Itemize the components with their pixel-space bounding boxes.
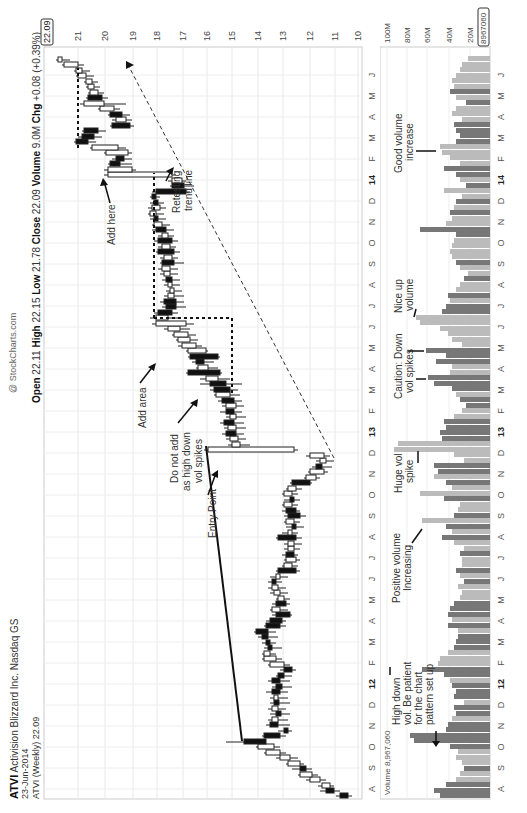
svg-text:increase: increase	[404, 123, 415, 161]
svg-text:S: S	[367, 261, 377, 267]
svg-text:12: 12	[367, 679, 377, 689]
svg-text:20M: 20M	[466, 27, 475, 43]
svg-text:A: A	[367, 786, 377, 792]
svg-text:100M: 100M	[383, 23, 392, 43]
svg-text:vol spikes: vol spikes	[193, 439, 204, 483]
svg-text:A: A	[367, 114, 377, 120]
svg-text:O: O	[367, 743, 377, 750]
svg-text:80M: 80M	[403, 27, 412, 43]
svg-text:S: S	[496, 261, 506, 267]
svg-text:S: S	[496, 513, 506, 519]
volume-panel: Volume 8,967,060	[380, 0, 492, 813]
volume-legend: Volume 8,967,060	[383, 730, 392, 795]
svg-text:N: N	[496, 471, 506, 478]
svg-text:Huge vol: Huge vol	[393, 454, 404, 493]
svg-text:O: O	[496, 239, 506, 246]
svg-text:as high down: as high down	[181, 432, 192, 491]
svg-text:F: F	[367, 156, 377, 162]
svg-text:M: M	[367, 638, 377, 646]
svg-text:M: M	[367, 596, 377, 604]
svg-text:Add here: Add here	[106, 204, 117, 245]
svg-text:M: M	[496, 596, 506, 604]
svg-text:spike: spike	[404, 459, 415, 483]
svg-text:12: 12	[496, 679, 506, 689]
month-axis-bottom: AS ON D 12 FM AM JJ AS ON D 13 FM AM JJ …	[492, 0, 512, 813]
svg-text:13: 13	[278, 31, 288, 41]
svg-text:M: M	[367, 344, 377, 352]
svg-text:J: J	[367, 325, 377, 330]
svg-text:vol. Be patient: vol. Be patient	[402, 661, 413, 725]
svg-text:20: 20	[100, 31, 110, 41]
svg-text:21: 21	[73, 31, 83, 41]
svg-text:F: F	[496, 408, 506, 414]
svg-text:15: 15	[227, 31, 237, 41]
svg-text:D: D	[496, 197, 506, 204]
svg-text:Do not add: Do not add	[169, 434, 180, 483]
svg-text:O: O	[496, 491, 506, 498]
svg-text:Positive volume: Positive volume	[391, 533, 402, 603]
svg-text:12: 12	[305, 31, 315, 41]
svg-text:J: J	[367, 304, 377, 309]
svg-text:A: A	[496, 786, 506, 792]
svg-text:M: M	[496, 344, 506, 352]
svg-text:O: O	[367, 239, 377, 246]
svg-text:M: M	[367, 134, 377, 142]
svg-text:S: S	[367, 513, 377, 519]
svg-text:F: F	[496, 660, 506, 666]
svg-text:D: D	[367, 701, 377, 708]
svg-text:J: J	[367, 73, 377, 78]
svg-text:D: D	[367, 197, 377, 204]
svg-text:A: A	[367, 282, 377, 288]
svg-text:M: M	[496, 92, 506, 100]
svg-text:F: F	[367, 660, 377, 666]
svg-text:J: J	[367, 577, 377, 582]
svg-text:pattern set up: pattern set up	[424, 663, 435, 725]
svg-text:N: N	[367, 471, 377, 478]
svg-text:M: M	[367, 386, 377, 394]
svg-text:J: J	[367, 556, 377, 561]
svg-text:S: S	[367, 765, 377, 771]
svg-text:O: O	[496, 743, 506, 750]
svg-text:Increasing: Increasing	[402, 545, 413, 591]
svg-text:N: N	[367, 723, 377, 730]
svg-text:M: M	[496, 134, 506, 142]
price-axis: 22.09 21 20 19 18 17 16 15 14 13 12 11 1…	[41, 19, 363, 45]
svg-text:Good volume: Good volume	[393, 113, 404, 173]
volume-current: 8967060	[479, 12, 488, 44]
svg-text:J: J	[496, 304, 506, 309]
svg-text:A: A	[496, 366, 506, 372]
chart-stage: ATVI Activision Blizzard Inc. Nasdaq GS …	[0, 0, 527, 813]
svg-text:M: M	[496, 638, 506, 646]
svg-text:Nice up: Nice up	[393, 279, 404, 313]
svg-text:A: A	[367, 534, 377, 540]
svg-text:16: 16	[202, 31, 212, 41]
svg-text:19: 19	[128, 31, 138, 41]
svg-text:N: N	[496, 219, 506, 226]
svg-text:M: M	[496, 386, 506, 394]
svg-text:M: M	[367, 92, 377, 100]
svg-text:Entry Point: Entry Point	[207, 489, 218, 538]
svg-text:F: F	[367, 408, 377, 414]
svg-text:for the chart: for the chart	[413, 671, 424, 725]
svg-text:O: O	[367, 491, 377, 498]
svg-text:14: 14	[253, 31, 263, 41]
svg-text:Caution: Down: Caution: Down	[393, 333, 404, 399]
svg-text:60M: 60M	[423, 27, 432, 43]
svg-text:18: 18	[152, 31, 162, 41]
svg-text:A: A	[367, 618, 377, 624]
svg-text:J: J	[496, 556, 506, 561]
svg-text:A: A	[496, 618, 506, 624]
svg-text:13: 13	[367, 427, 377, 437]
svg-text:J: J	[496, 73, 506, 78]
price-current: 22.09	[42, 20, 52, 43]
svg-text:40M: 40M	[445, 27, 454, 43]
svg-text:A: A	[367, 366, 377, 372]
svg-text:High down: High down	[391, 678, 402, 725]
svg-text:D: D	[496, 701, 506, 708]
svg-text:Add area: Add area	[137, 387, 148, 428]
svg-text:A: A	[496, 534, 506, 540]
svg-text:S: S	[496, 765, 506, 771]
svg-text:D: D	[367, 449, 377, 456]
svg-text:13: 13	[496, 427, 506, 437]
svg-text:A: A	[496, 282, 506, 288]
